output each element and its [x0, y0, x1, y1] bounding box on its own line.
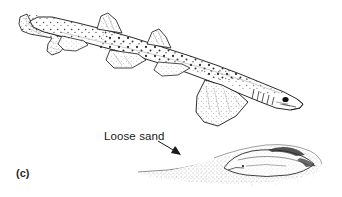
panel-label: (c)	[16, 168, 29, 179]
loose-sand-pointer-arrow	[158, 141, 181, 155]
shark-upper-figure	[18, 10, 310, 126]
first-dorsal-fin	[97, 13, 122, 33]
figure-panel: Loose sand (c)	[0, 0, 342, 197]
buried-shark-scene	[130, 140, 330, 190]
loose-sand-label: Loose sand	[104, 131, 164, 143]
shark-illustration	[0, 0, 342, 197]
